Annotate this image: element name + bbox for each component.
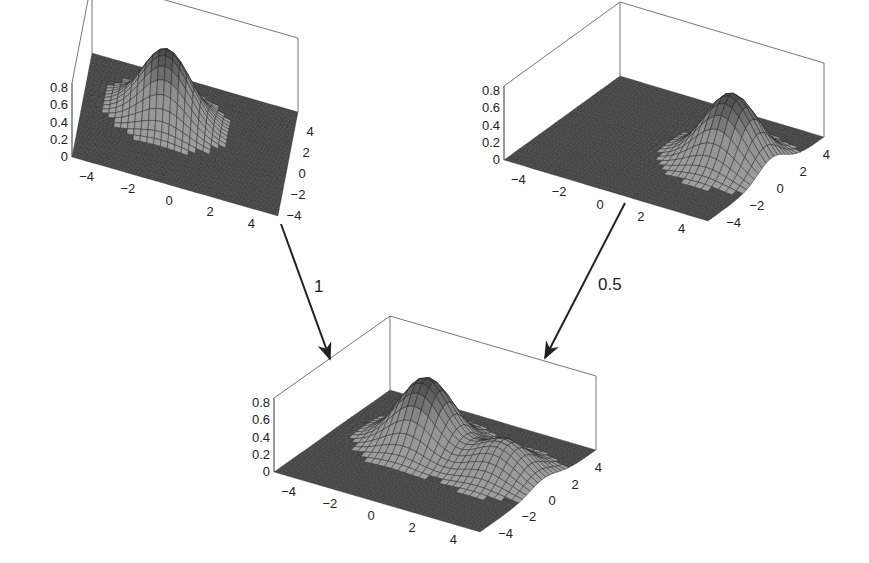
z-tick-label: 0.8 — [252, 395, 270, 410]
x-tick-label: 4 — [248, 216, 255, 231]
arrow-weight-1: 1 — [281, 224, 330, 359]
y-tick-label: 4 — [595, 460, 602, 475]
z-tick-label: 0.6 — [252, 412, 270, 427]
x-tick-label: 2 — [207, 204, 214, 219]
x-tick-label: −4 — [281, 484, 296, 499]
z-tick-label: 0 — [61, 149, 68, 164]
y-tick-label: −2 — [521, 509, 536, 524]
y-tick-label: −2 — [291, 187, 306, 202]
surface-mesh — [72, 49, 298, 216]
x-tick-label: −2 — [322, 496, 337, 511]
y-tick-label: 4 — [306, 124, 313, 139]
z-tick-label: 0.8 — [482, 83, 500, 98]
z-axis-ticks: 00.20.40.60.8 — [50, 80, 68, 164]
z-tick-label: 0.2 — [50, 132, 68, 147]
z-tick-label: 0 — [263, 464, 270, 479]
y-tick-label: 4 — [823, 147, 830, 162]
x-tick-label: 4 — [678, 221, 685, 236]
weight-label: 0.5 — [598, 275, 622, 294]
z-tick-label: 0.6 — [50, 97, 68, 112]
surface-plot-top-left: 00.20.40.60.8−4−2024−4−2024 — [50, 0, 314, 231]
y-tick-label: 2 — [800, 164, 807, 179]
diagram-canvas: 00.20.40.60.8−4−2024−4−2024 00.20.40.60.… — [0, 0, 869, 563]
x-tick-label: −4 — [511, 172, 526, 187]
z-tick-label: 0.2 — [482, 135, 500, 150]
x-tick-label: −4 — [79, 169, 94, 184]
z-axis-ticks: 00.20.40.60.8 — [252, 395, 270, 479]
y-tick-label: −2 — [749, 198, 764, 213]
x-tick-label: 2 — [409, 520, 416, 535]
z-tick-label: 0.8 — [50, 80, 68, 95]
weight-label: 1 — [314, 277, 323, 296]
surface-plot-top-right: 00.20.40.60.8−4−2024−4−2024 — [482, 2, 830, 236]
y-tick-label: 0 — [776, 181, 783, 196]
z-axis-ticks: 00.20.40.60.8 — [482, 83, 500, 167]
x-tick-label: −2 — [120, 181, 135, 196]
y-tick-label: 0 — [298, 166, 305, 181]
z-tick-label: 0.4 — [50, 115, 68, 130]
x-tick-label: −2 — [552, 184, 567, 199]
y-tick-label: 2 — [572, 477, 579, 492]
y-tick-label: 2 — [302, 145, 309, 160]
x-tick-label: 0 — [165, 193, 172, 208]
y-tick-label: −4 — [287, 208, 302, 223]
z-tick-label: 0.2 — [252, 447, 270, 462]
x-tick-label: 2 — [637, 209, 644, 224]
z-tick-label: 0.4 — [482, 118, 500, 133]
z-tick-label: 0.6 — [482, 100, 500, 115]
arrow-weight-half: 0.5 — [545, 203, 625, 358]
y-tick-label: −4 — [498, 526, 513, 541]
x-tick-label: 0 — [367, 508, 374, 523]
x-tick-label: 4 — [450, 532, 457, 547]
y-tick-label: −4 — [726, 215, 741, 230]
z-tick-label: 0.4 — [252, 430, 270, 445]
x-tick-label: 0 — [596, 197, 603, 212]
z-tick-label: 0 — [493, 152, 500, 167]
y-tick-label: 0 — [548, 493, 555, 508]
